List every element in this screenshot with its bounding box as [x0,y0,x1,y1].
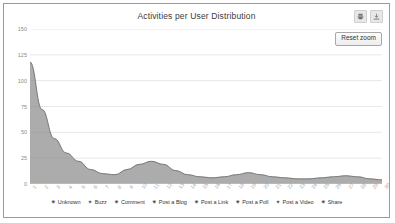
legend-label: Post a Video [283,199,314,205]
y-axis-tick-label: 100 [18,78,27,84]
x-axis-tick-label: 14 [189,182,197,190]
legend-label: Comment [121,199,145,205]
plot-area[interactable]: 0255075100125150 12345678910111213141516… [30,29,382,184]
legend-item-buzz[interactable]: ✦Buzz [88,199,107,205]
x-axis-tick-label: 22 [286,182,294,190]
gridlines [30,29,382,184]
legend-marker-icon: ✷ [194,199,199,205]
x-axis-tick-label: 5 [80,184,86,190]
legend-label: Post a Poll [242,199,268,205]
legend-marker-icon: ✷ [51,199,56,205]
x-axis-tick-label: 30 [383,182,391,190]
print-icon[interactable] [354,10,367,23]
legend-marker-icon: ✷ [235,199,240,205]
legend-item-post-a-video[interactable]: ✦Post a Video [276,199,314,205]
y-axis-tick-label: 25 [21,155,27,161]
legend-item-share[interactable]: ✷Share [321,199,343,205]
chart-panel: Activities per User Distribution Reset z… [3,3,390,218]
x-axis-tick-label: 4 [67,184,73,190]
series-line [30,62,382,180]
x-axis-tick-label: 29 [371,182,379,190]
legend-label: Post a Link [201,199,228,205]
x-axis-tick-label: 7 [104,184,110,190]
y-axis-tick-label: 50 [21,129,27,135]
legend-marker-icon: ✦ [88,199,93,205]
page-title: Activities per User Distribution [4,11,389,21]
legend-marker-icon: ✷ [152,199,157,205]
chart-legend: ✷Unknown✦Buzz✷Comment✷Post a Blog✷Post a… [4,199,389,205]
x-axis-tick-label: 1 [31,184,37,190]
x-axis-tick-label: 27 [347,182,355,190]
legend-marker-icon: ✷ [321,199,326,205]
x-axis-tick-label: 3 [55,184,61,190]
x-axis-tick-label: 6 [92,184,98,190]
y-axis-tick-label: 0 [24,181,27,187]
x-axis-tick-label: 12 [165,182,173,190]
legend-item-post-a-poll[interactable]: ✷Post a Poll [235,199,268,205]
x-axis-tick-label: 28 [359,182,367,190]
legend-label: Buzz [95,199,107,205]
x-axis-tick-label: 2 [43,184,49,190]
x-axis-tick-label: 15 [201,182,209,190]
export-button-group [354,10,383,23]
y-axis-tick-label: 150 [18,26,27,32]
legend-label: Unknown [58,199,81,205]
legend-label: Share [328,199,343,205]
area-chart-svg [30,29,382,184]
download-icon[interactable] [370,10,383,23]
legend-marker-icon: ✷ [114,199,119,205]
x-axis-tick-label: 13 [177,182,185,190]
legend-item-post-a-blog[interactable]: ✷Post a Blog [152,199,187,205]
y-axis-tick-label: 125 [18,52,27,58]
x-axis-tick-label: 8 [116,184,122,190]
legend-item-post-a-link[interactable]: ✷Post a Link [194,199,228,205]
legend-item-comment[interactable]: ✷Comment [114,199,145,205]
x-axis-tick-label: 9 [128,184,134,190]
y-axis-tick-label: 75 [21,104,27,110]
legend-marker-icon: ✦ [276,199,281,205]
legend-item-unknown[interactable]: ✷Unknown [51,199,81,205]
x-axis-tick-label: 21 [274,182,282,190]
x-axis-tick-label: 20 [262,182,270,190]
legend-label: Post a Blog [159,199,187,205]
